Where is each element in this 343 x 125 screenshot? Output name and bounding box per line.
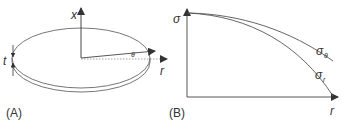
svg-text:r: r: [323, 76, 326, 83]
sigma-r-curve: [188, 13, 333, 96]
x-axis-label: x: [70, 8, 78, 22]
radius-arrow: [81, 51, 155, 58]
svg-text:σ: σ: [316, 44, 324, 58]
svg-text:σ: σ: [315, 68, 323, 82]
sigma-r-label: σ r: [315, 68, 326, 83]
sigma-theta-label: σ θ: [316, 44, 328, 59]
r-axis-label: r: [160, 64, 165, 78]
panel-b-stress-plot: σ σ θ σ r r (B): [169, 9, 338, 120]
panel-a-label: (A): [6, 106, 22, 120]
panel-b-label: (B): [169, 106, 185, 120]
sigma-theta-curve: [188, 13, 333, 61]
panel-a-disk-diagram: x r θ t (A): [3, 8, 167, 120]
x-axis-label: r: [330, 104, 335, 118]
thickness-label: t: [3, 54, 7, 68]
disk-bottom-rim: [12, 62, 150, 92]
y-axis-label: σ: [173, 12, 181, 26]
theta-label: θ: [131, 51, 135, 58]
svg-text:θ: θ: [324, 52, 328, 59]
figure: x r θ t (A) σ σ θ σ r r (B): [0, 0, 343, 125]
